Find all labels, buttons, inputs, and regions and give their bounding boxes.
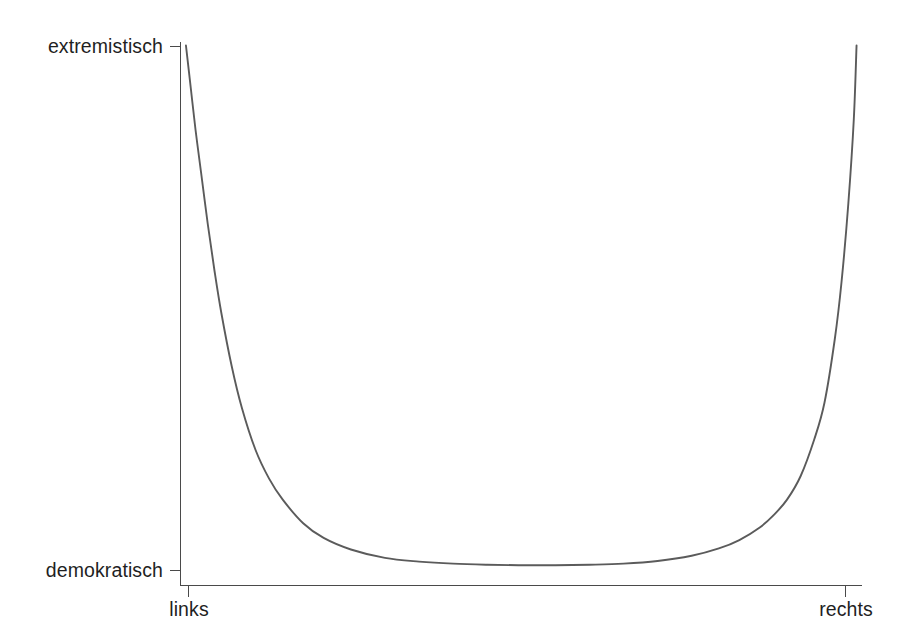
y-axis-label-demokratisch: demokratisch bbox=[0, 559, 163, 582]
x-axis-label-links: links bbox=[148, 598, 230, 621]
chart-figure: extremistisch demokratisch links rechts bbox=[0, 0, 897, 642]
x-axis-label-rechts: rechts bbox=[795, 598, 897, 621]
chart-plot-area bbox=[0, 0, 897, 642]
data-curve-line bbox=[186, 46, 857, 566]
y-axis-label-extremistisch: extremistisch bbox=[0, 35, 163, 58]
clipped-caption-text bbox=[0, 631, 897, 642]
